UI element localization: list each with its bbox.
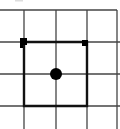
- dot-marker: [50, 68, 62, 80]
- grid-diagram: [0, 0, 120, 129]
- square-marker-1-tail: [20, 38, 23, 48]
- faint-mark: [15, 0, 23, 2]
- square-marker-2: [82, 40, 88, 46]
